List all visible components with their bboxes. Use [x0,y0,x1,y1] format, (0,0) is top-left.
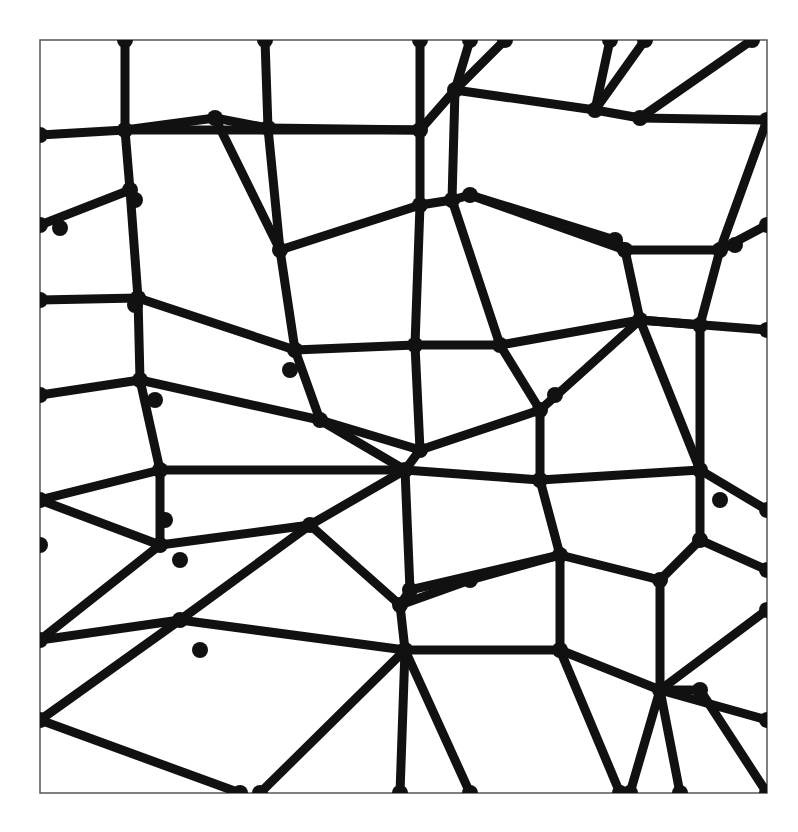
network-node [127,297,143,313]
network-edge [415,205,420,345]
network-node [632,312,648,328]
network-edge [40,298,138,300]
network-node [157,512,173,528]
network-edge [640,320,700,325]
network-node [32,537,48,553]
network-node [462,572,478,588]
network-node [759,602,775,618]
network-node [532,402,548,418]
network-edge [640,118,767,120]
network-node [392,785,408,801]
network-node [32,492,48,508]
network-node [692,317,708,333]
network-edge [40,130,125,135]
network-edge [265,40,268,128]
network-node [302,517,318,533]
network-node [32,387,48,403]
network-node [744,32,760,48]
network-node [547,387,563,403]
network-node [412,122,428,138]
network-node [652,682,668,698]
network-edge [295,345,415,350]
network-node [532,472,548,488]
network-node [492,337,508,353]
network-node [32,632,48,648]
network-node [412,197,428,213]
network-edge [452,90,455,200]
network-node [282,362,298,378]
network-node [412,32,428,48]
voronoi-network-artwork [0,0,798,832]
network-node [712,492,728,508]
network-node [287,342,303,358]
network-node [727,237,743,253]
network-node [32,127,48,143]
network-node [759,785,775,801]
network-node [552,642,568,658]
network-node [257,32,273,48]
network-node [152,537,168,553]
network-node [497,32,513,48]
network-node [192,642,208,658]
network-node [632,110,648,126]
network-node [32,292,48,308]
network-node [152,462,168,478]
network-node [397,642,413,658]
network-node [260,120,276,136]
network-edge [125,130,130,190]
network-node [52,220,68,236]
network-node [617,242,633,258]
network-node [637,32,653,48]
network-node [132,372,148,388]
network-node [127,192,143,208]
network-edge [405,470,410,590]
network-node [207,110,223,126]
network-node [672,785,688,801]
network-node [462,785,478,801]
network-node [759,217,775,233]
network-node [252,785,268,801]
network-node [462,32,478,48]
network-node [602,32,618,48]
network-node [692,462,708,478]
network-node [392,597,408,613]
network-node [32,712,48,728]
network-node [172,612,188,628]
network-node [402,582,418,598]
network-node [759,562,775,578]
network-node [412,442,428,458]
network-node [117,32,133,48]
network-node [652,572,668,588]
network-node [759,712,775,728]
network-node [759,322,775,338]
network-edge [400,650,405,793]
network-node [692,532,708,548]
network-node [692,682,708,698]
network-node [232,785,248,801]
network-node [407,337,423,353]
network-node [312,412,328,428]
network-node [587,102,603,118]
network-node [759,112,775,128]
network-node [32,217,48,233]
network-node [447,82,463,98]
network-node [444,192,460,208]
network-edge [415,345,420,450]
network-node [552,547,568,563]
network-node [147,392,163,408]
network-node [117,122,133,138]
network-node [712,242,728,258]
network-node [462,187,478,203]
network-node [272,242,288,258]
network-node [397,462,413,478]
network-node [172,552,188,568]
network-node [622,785,638,801]
network-node [759,502,775,518]
